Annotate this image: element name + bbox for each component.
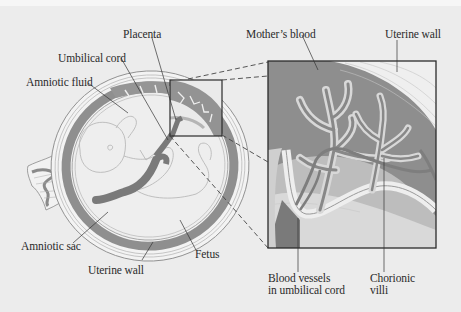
detail-region-box — [170, 80, 222, 136]
inset-detail — [268, 61, 436, 248]
label-blood-vessels-line2: in umbilical cord — [268, 284, 345, 296]
label-chorionic-line2: villi — [370, 284, 388, 296]
label-amniotic-fluid: Amniotic fluid — [26, 76, 93, 88]
label-uterine-wall-bottom: Uterine wall — [88, 264, 144, 276]
label-mothers-blood: Mother’s blood — [246, 28, 316, 40]
label-placenta: Placenta — [123, 28, 161, 40]
diagram-canvas — [0, 0, 461, 312]
label-fetus: Fetus — [195, 248, 219, 260]
label-uterine-wall-inset: Uterine wall — [385, 28, 441, 40]
label-umbilical-cord: Umbilical cord — [58, 52, 126, 64]
label-chorionic-line1: Chorionic — [370, 272, 415, 284]
label-amniotic-sac: Amniotic sac — [21, 240, 81, 252]
label-blood-vessels-line1: Blood vessels — [268, 272, 330, 284]
